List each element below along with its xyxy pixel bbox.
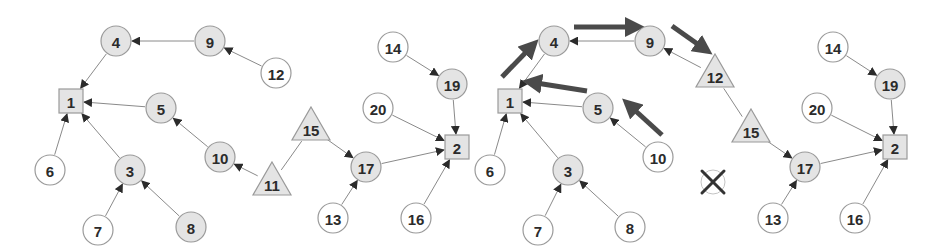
edge-8-to-3 <box>580 181 618 216</box>
node-4: 4 <box>101 26 131 56</box>
node-label: 16 <box>408 211 425 228</box>
edge-16-to-2 <box>424 160 450 204</box>
edge-11-to-15 <box>281 141 301 170</box>
node-label: 6 <box>46 163 54 180</box>
node-9: 9 <box>635 26 665 56</box>
node-label: 4 <box>550 34 559 51</box>
node-label: 12 <box>707 69 724 86</box>
edge-12-to-9 <box>664 48 701 67</box>
node-3: 3 <box>115 155 145 185</box>
removed-node-11 <box>701 170 725 194</box>
node-label: 2 <box>453 140 461 157</box>
edges-layer <box>55 41 894 216</box>
node-13: 13 <box>758 203 788 233</box>
node-label: 17 <box>358 160 375 177</box>
node-20: 20 <box>363 93 393 123</box>
node-label: 4 <box>112 34 121 51</box>
node-15: 15 <box>292 107 330 140</box>
node-16: 16 <box>401 203 431 233</box>
node-label: 13 <box>765 211 782 228</box>
highlight-arrow <box>502 45 533 77</box>
edge-19-to-2 <box>453 100 456 134</box>
node-label: 16 <box>847 211 864 228</box>
edge-13-to-17 <box>782 181 797 205</box>
node-label: 20 <box>809 101 826 118</box>
node-label: 2 <box>891 140 899 157</box>
node-label: 3 <box>564 163 572 180</box>
node-label: 14 <box>385 40 402 57</box>
node-14: 14 <box>818 32 848 62</box>
highlight-arrow <box>628 104 662 135</box>
edge-4-to-1 <box>81 54 107 88</box>
edge-17-to-2 <box>821 150 882 164</box>
highlight-arrow <box>672 26 706 50</box>
diagram-canvas: 1491253678101115171321619142014912510367… <box>0 0 949 252</box>
highlight-arrow <box>530 82 587 91</box>
node-15: 15 <box>732 109 770 142</box>
node-2: 2 <box>445 135 469 159</box>
edge-7-to-3 <box>545 184 561 215</box>
edge-20-to-2 <box>392 115 444 141</box>
node-1: 1 <box>59 89 83 113</box>
node-4: 4 <box>539 26 569 56</box>
edge-10-to-5 <box>173 118 207 147</box>
node-8: 8 <box>615 212 645 242</box>
edge-7-to-3 <box>106 184 123 216</box>
node-11: 11 <box>253 162 291 195</box>
edge-14-to-19 <box>846 56 876 76</box>
node-label: 19 <box>444 77 461 94</box>
node-label: 5 <box>594 101 602 118</box>
node-17: 17 <box>790 152 820 182</box>
edge-5-to-1 <box>523 102 582 107</box>
node-label: 5 <box>157 101 165 118</box>
edge-16-to-2 <box>863 160 888 204</box>
node-16: 16 <box>840 203 870 233</box>
graph-diagram: 1491253678101115171321619142014912510367… <box>0 0 949 252</box>
edge-8-to-3 <box>142 181 180 216</box>
node-19: 19 <box>875 69 905 99</box>
node-17: 17 <box>351 152 381 182</box>
edge-14-to-19 <box>407 56 439 76</box>
node-10: 10 <box>643 142 673 172</box>
node-label: 1 <box>67 94 75 111</box>
node-3: 3 <box>553 155 583 185</box>
node-label: 6 <box>486 163 494 180</box>
node-label: 15 <box>303 122 320 139</box>
node-10: 10 <box>205 142 235 172</box>
removed-nodes-layer <box>701 170 725 194</box>
edge-20-to-2 <box>831 115 882 140</box>
edge-12-to-15 <box>724 88 742 116</box>
node-6: 6 <box>475 155 505 185</box>
node-7: 7 <box>83 215 113 245</box>
node-19: 19 <box>437 69 467 99</box>
node-label: 10 <box>212 150 229 167</box>
node-8: 8 <box>176 212 206 242</box>
node-label: 8 <box>626 220 634 237</box>
node-label: 3 <box>126 163 134 180</box>
edge-3-to-1 <box>82 114 120 158</box>
node-1: 1 <box>498 89 522 113</box>
nodes-layer: 1491253678101115171321619142014912510367… <box>35 26 907 245</box>
node-label: 1 <box>506 94 514 111</box>
node-9: 9 <box>195 26 225 56</box>
node-label: 12 <box>268 66 285 83</box>
edge-6-to-1 <box>55 114 67 155</box>
node-5: 5 <box>583 93 613 123</box>
node-label: 13 <box>325 211 342 228</box>
node-label: 20 <box>370 101 387 118</box>
node-label: 15 <box>743 124 760 141</box>
node-6: 6 <box>35 155 65 185</box>
node-label: 8 <box>187 220 195 237</box>
edge-6-to-1 <box>494 114 506 155</box>
node-13: 13 <box>318 203 348 233</box>
node-label: 19 <box>882 77 899 94</box>
node-5: 5 <box>146 93 176 123</box>
node-label: 9 <box>206 34 214 51</box>
edge-13-to-17 <box>342 180 358 204</box>
node-label: 17 <box>797 160 814 177</box>
node-label: 9 <box>646 34 654 51</box>
node-2: 2 <box>883 135 907 159</box>
node-label: 7 <box>94 223 102 240</box>
edge-3-to-1 <box>521 114 558 158</box>
node-label: 11 <box>264 177 280 194</box>
